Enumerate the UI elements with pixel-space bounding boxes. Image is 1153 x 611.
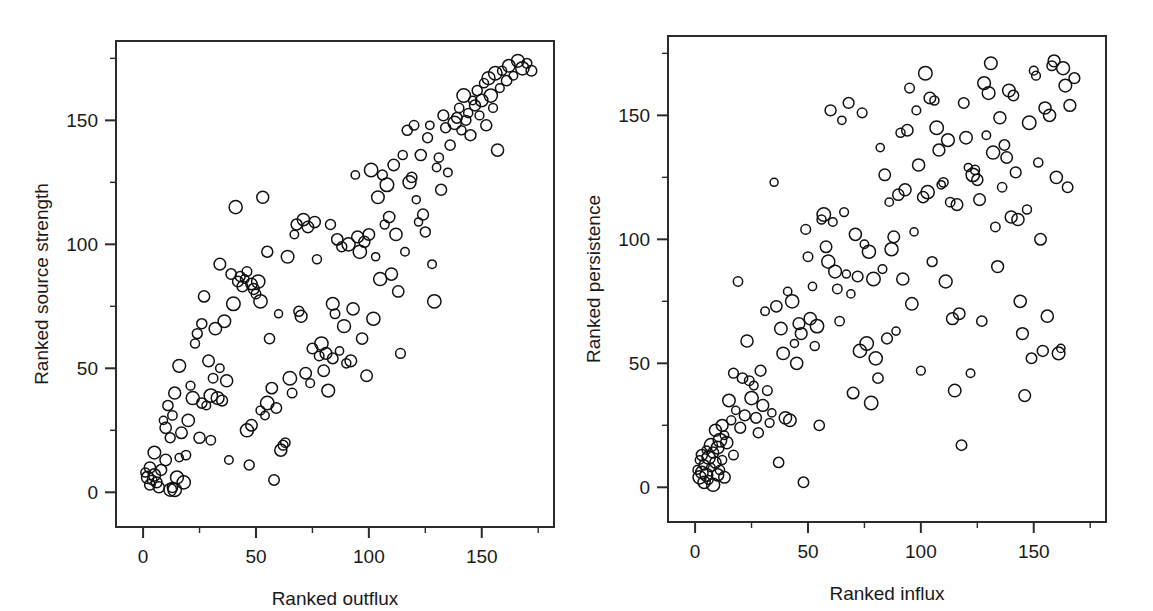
x-axis-title: Ranked influx (829, 583, 945, 604)
x-axis-title: Ranked outflux (272, 588, 399, 609)
x-tick-label: 0 (138, 546, 149, 567)
y-tick-label: 150 (66, 110, 98, 131)
y-tick-label: 0 (87, 482, 98, 503)
y-tick-label: 50 (77, 358, 98, 379)
y-tick-label: 0 (639, 477, 650, 498)
x-tick-label: 150 (466, 546, 498, 567)
right-scatter-svg: 050100150050100150Ranked influxRanked pe… (576, 0, 1153, 611)
y-axis-title: Ranked persistence (583, 195, 604, 363)
x-tick-label: 150 (1018, 541, 1050, 562)
y-tick-label: 150 (618, 105, 650, 126)
x-tick-label: 50 (245, 546, 266, 567)
y-tick-label: 50 (629, 353, 650, 374)
y-axis-title: Ranked source strength (31, 183, 52, 385)
x-tick-label: 50 (797, 541, 818, 562)
panel-left-scatter: 050100150050100150Ranked outfluxRanked s… (0, 0, 576, 611)
y-tick-label: 100 (66, 234, 98, 255)
x-tick-label: 100 (905, 541, 937, 562)
left-scatter-svg: 050100150050100150Ranked outfluxRanked s… (0, 0, 576, 611)
figure-container: 050100150050100150Ranked outfluxRanked s… (0, 0, 1153, 611)
y-tick-label: 100 (618, 229, 650, 250)
panel-right-scatter: 050100150050100150Ranked influxRanked pe… (576, 0, 1153, 611)
x-tick-label: 100 (353, 546, 385, 567)
x-tick-label: 0 (690, 541, 701, 562)
